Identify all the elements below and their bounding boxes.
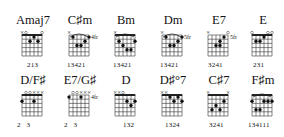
open-string-icon (267, 31, 270, 34)
mute-x-icon: × (164, 89, 168, 95)
fingering-label: 3241 (208, 61, 223, 69)
finger-dot (125, 48, 128, 51)
open-string-icon (72, 91, 75, 94)
mute-x-icon: × (117, 89, 121, 95)
finger-dot (32, 100, 35, 103)
chord-diagram: C♯7××3241 (196, 73, 242, 135)
chord-diagram: C♯m×4fr13421 (57, 13, 103, 75)
finger-dot (20, 100, 23, 103)
fingering-label: 231 (253, 61, 264, 69)
finger-dot (133, 100, 136, 103)
finger-dot (172, 100, 175, 103)
finger-dot (36, 40, 39, 43)
mute-x-icon: × (20, 29, 24, 35)
finger-dot (75, 44, 78, 47)
finger-dot (262, 100, 265, 103)
open-string-icon (122, 91, 125, 94)
finger-dot (164, 35, 167, 38)
mute-x-icon: × (67, 29, 71, 35)
finger-dot (250, 100, 253, 103)
finger-dot (28, 40, 31, 43)
finger-dot (168, 44, 171, 47)
fingering-label: 134111 (248, 121, 270, 129)
finger-dot (214, 104, 217, 107)
mute-x-icon: × (113, 29, 117, 35)
finger-dot (270, 100, 273, 103)
finger-dot (254, 108, 257, 111)
finger-dot (218, 44, 221, 47)
finger-dot (210, 108, 213, 111)
mute-x-icon: × (206, 89, 210, 95)
finger-dot (258, 40, 261, 43)
chord-chart: Amaj7×213C♯m×4fr13421Bm×13421Dm×5fr13421… (0, 0, 284, 137)
fingering-label: 2 3 (17, 121, 30, 129)
fingering-label: 3241 (209, 121, 224, 129)
fret-position-label: 5fr (184, 34, 191, 40)
finger-dot (67, 95, 70, 98)
fingering-label: 13421 (67, 61, 86, 69)
finger-dot (172, 44, 175, 47)
mute-x-icon: × (160, 29, 164, 35)
chord-diagram: E7/G♯×××4fr2 3 (57, 73, 103, 135)
fret-position-label: 5fr (230, 34, 237, 40)
finger-dot (79, 44, 82, 47)
finger-dot (222, 100, 225, 103)
chord-diagram: Bm×13421 (103, 13, 149, 75)
fingering-label: 13421 (113, 61, 132, 69)
finger-dot (125, 100, 128, 103)
open-string-icon (25, 31, 28, 34)
finger-dot (32, 35, 35, 38)
finger-dot (121, 44, 124, 47)
fingering-label: 2 3 (64, 121, 77, 129)
fingering-label: 1324 (165, 121, 180, 129)
finger-dot (117, 40, 120, 43)
fingering-label: 132 (123, 121, 134, 129)
fingering-label: 213 (27, 61, 38, 69)
finger-dot (79, 95, 82, 98)
open-string-icon (25, 91, 28, 94)
finger-dot (266, 100, 269, 103)
finger-dot (129, 48, 132, 51)
fret-position-label: 4fr (91, 94, 98, 100)
chord-diagram: F♯m134111 (240, 73, 284, 135)
finger-dot (176, 40, 179, 43)
chord-diagram: E231 (240, 13, 284, 75)
chord-diagram: E7×5fr3241 (196, 13, 242, 75)
finger-dot (180, 100, 183, 103)
open-string-icon (271, 31, 274, 34)
finger-dot (254, 40, 257, 43)
mute-x-icon: × (226, 89, 230, 95)
finger-dot (133, 40, 136, 43)
finger-dot (129, 104, 132, 107)
chord-diagram: D××132 (103, 73, 149, 135)
finger-dot (71, 35, 74, 38)
chord-diagram: D♯°7××1324 (150, 73, 196, 135)
finger-dot (214, 44, 217, 47)
finger-dot (258, 108, 261, 111)
open-string-icon (227, 31, 230, 34)
mute-x-icon: × (40, 89, 44, 95)
finger-dot (218, 108, 221, 111)
finger-dot (168, 95, 171, 98)
chord-diagram: Amaj7×213 (10, 13, 56, 75)
chord-diagram: D/F♯×××2 3 (10, 73, 56, 135)
finger-dot (83, 40, 86, 43)
open-string-icon (251, 31, 254, 34)
mute-x-icon: × (206, 29, 210, 35)
fingering-label: 13421 (160, 61, 179, 69)
chord-diagram: Dm×5fr13421 (150, 13, 196, 75)
finger-dot (176, 95, 179, 98)
finger-dot (222, 35, 225, 38)
finger-dot (262, 35, 265, 38)
finger-dot (218, 40, 221, 43)
fret-position-label: 4fr (91, 34, 98, 40)
open-string-icon (41, 31, 44, 34)
